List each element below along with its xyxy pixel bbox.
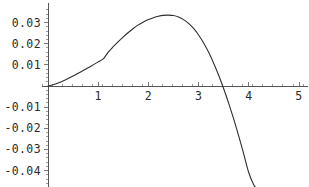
plot-canvas: 12345 0.030.020.01-0.01-0.02-0.03-0.04 <box>0 0 309 187</box>
x-tick-label: 3 <box>195 89 202 103</box>
y-tick-label: 0.01 <box>12 58 41 72</box>
y-tick-label: -0.01 <box>4 100 41 114</box>
x-tick-label: 4 <box>245 89 252 103</box>
y-tick-label: -0.02 <box>4 121 41 135</box>
x-tick-label: 2 <box>145 89 152 103</box>
plot-figure: 12345 0.030.020.01-0.01-0.02-0.03-0.04 <box>0 0 309 187</box>
x-tick-label: 5 <box>295 89 302 103</box>
y-tick-label: 0.03 <box>12 16 41 30</box>
y-tick-label: -0.03 <box>4 142 41 156</box>
y-tick-label: -0.04 <box>4 164 41 178</box>
y-tick-label: 0.02 <box>12 37 41 51</box>
x-tick-label: 1 <box>95 89 102 103</box>
plot-background <box>0 0 309 187</box>
